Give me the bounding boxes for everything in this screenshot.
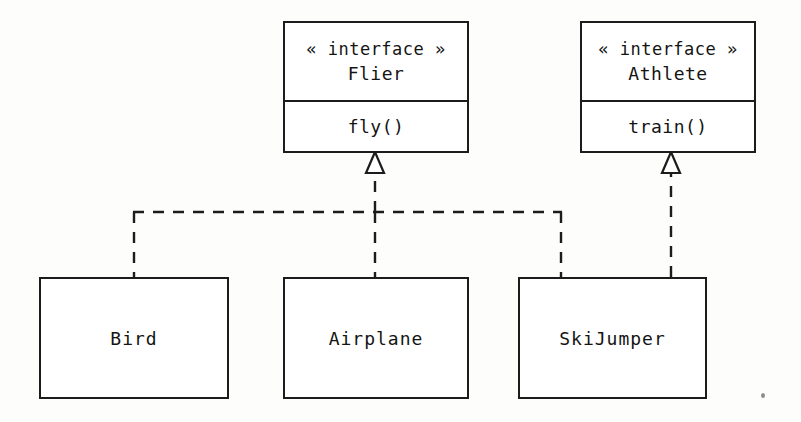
interface-box-flier[interactable]: « interface » Flier fly(): [283, 21, 469, 153]
operation-train: train(): [628, 116, 707, 137]
scan-speck: [761, 393, 765, 398]
hollow-triangle-arrowhead-flier: [366, 152, 384, 173]
class-name-skijumper: SkiJumper: [559, 328, 666, 349]
uml-diagram-canvas: Flier --> Athlete --> « interface » Flie…: [0, 0, 801, 422]
stereotype-label-flier: « interface »: [306, 37, 446, 61]
operations-compartment-flier: fly(): [285, 102, 467, 151]
interface-box-athlete[interactable]: « interface » Athlete train(): [580, 21, 756, 153]
class-name-airplane: Airplane: [329, 328, 424, 349]
class-box-skijumper[interactable]: SkiJumper: [518, 277, 707, 399]
interface-name-flier: Flier: [348, 61, 405, 87]
operations-compartment-athlete: train(): [582, 102, 754, 151]
interface-name-athlete: Athlete: [628, 61, 707, 87]
operation-fly: fly(): [348, 116, 405, 137]
interface-header-athlete: « interface » Athlete: [582, 23, 754, 100]
class-box-bird[interactable]: Bird: [39, 277, 229, 399]
class-name-compartment-bird: Bird: [41, 279, 227, 397]
class-name-compartment-skijumper: SkiJumper: [520, 279, 705, 397]
interface-header-flier: « interface » Flier: [285, 23, 467, 100]
realization-to-flier: [133, 172, 562, 277]
hollow-triangle-arrowhead-athlete: [662, 152, 680, 173]
class-name-compartment-airplane: Airplane: [285, 279, 467, 397]
class-name-bird: Bird: [110, 328, 157, 349]
stereotype-label-athlete: « interface »: [598, 37, 738, 61]
class-box-airplane[interactable]: Airplane: [283, 277, 469, 399]
